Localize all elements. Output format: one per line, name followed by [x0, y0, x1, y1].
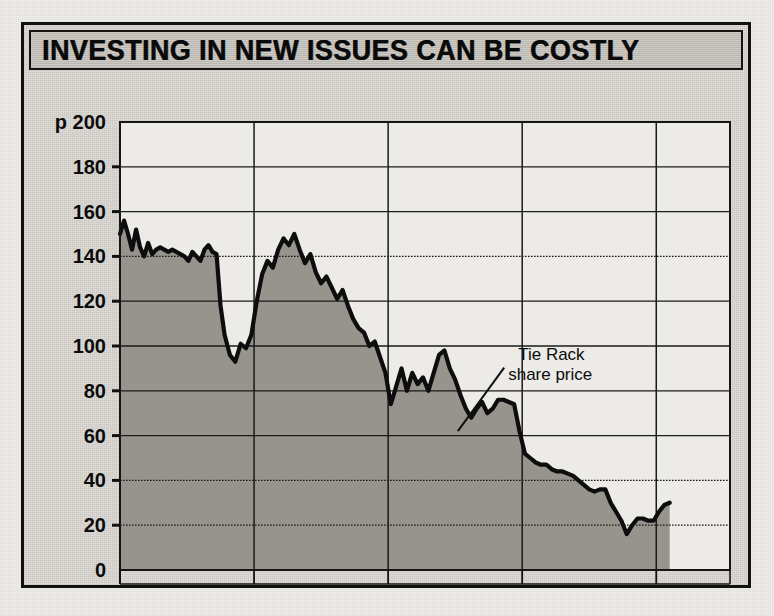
y-tick-label: 160: [73, 201, 106, 223]
chart-figure: INVESTING IN NEW ISSUES CAN BE COSTLY 02…: [21, 22, 751, 588]
y-tick-label: 100: [73, 335, 106, 357]
y-tick-label: p 200: [55, 111, 106, 133]
y-tick-label: 80: [84, 380, 106, 402]
annotation-line-2: share price: [508, 365, 592, 384]
y-tick-label: 140: [73, 245, 106, 267]
y-tick-label: 20: [84, 514, 106, 536]
y-axis-ticks: [112, 167, 120, 525]
chart-title: INVESTING IN NEW ISSUES CAN BE COSTLY: [31, 33, 639, 66]
price-chart-svg: 020406080100120140160180p 200 1987198819…: [24, 71, 748, 585]
chart-plot-container: 020406080100120140160180p 200 1987198819…: [24, 71, 748, 585]
x-axis-ticks: [120, 570, 656, 584]
y-tick-label: 0: [95, 559, 106, 581]
y-tick-label: 40: [84, 469, 106, 491]
chart-title-band: INVESTING IN NEW ISSUES CAN BE COSTLY: [29, 30, 743, 70]
y-tick-label: 180: [73, 156, 106, 178]
annotation-line-1: Tie Rack: [518, 345, 585, 364]
y-tick-label: 120: [73, 290, 106, 312]
y-axis-labels: 020406080100120140160180p 200: [55, 111, 106, 581]
y-tick-label: 60: [84, 425, 106, 447]
